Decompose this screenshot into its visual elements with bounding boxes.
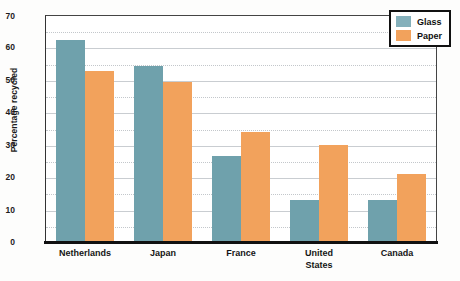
bar-france-paper[interactable]: [241, 132, 270, 242]
y-tick-50: 50: [0, 75, 15, 85]
y-tick-60: 60: [0, 42, 15, 52]
y-tick-10: 10: [0, 205, 15, 215]
bar-group-canada: [358, 16, 436, 242]
bar-united-states-paper[interactable]: [319, 145, 348, 242]
bar-netherlands-glass[interactable]: [56, 40, 85, 242]
bar-canada-glass[interactable]: [368, 200, 397, 242]
bar-japan-glass[interactable]: [134, 66, 163, 242]
bar-france-glass[interactable]: [212, 156, 241, 242]
x-tick-japan: Japan: [124, 248, 202, 260]
x-tick-canada: Canada: [358, 248, 436, 260]
bar-netherlands-paper[interactable]: [85, 71, 114, 242]
bar-canada-paper[interactable]: [397, 174, 426, 242]
legend-item-glass[interactable]: Glass: [396, 16, 442, 27]
bar-chart: Percentage recycled: [0, 0, 460, 281]
y-tick-30: 30: [0, 140, 15, 150]
x-tick-netherlands: Netherlands: [46, 248, 124, 260]
bar-group-netherlands: [46, 16, 124, 242]
legend-label-glass: Glass: [417, 17, 442, 27]
y-tick-70: 70: [0, 11, 15, 21]
paper-swatch-icon: [396, 30, 411, 41]
bar-united-states-glass[interactable]: [290, 200, 319, 242]
x-tick-france: France: [202, 248, 280, 260]
legend: Glass Paper: [389, 10, 451, 47]
bars-container: [46, 16, 436, 242]
x-axis-line: [44, 241, 438, 244]
x-tick-united-states: United States: [280, 248, 358, 271]
bar-group-japan: [124, 16, 202, 242]
y-tick-40: 40: [0, 107, 15, 117]
y-tick-20: 20: [0, 172, 15, 182]
x-tick-united-states-line2: States: [280, 260, 358, 272]
legend-item-paper[interactable]: Paper: [396, 30, 442, 41]
bar-group-france: [202, 16, 280, 242]
bar-japan-paper[interactable]: [163, 82, 192, 242]
x-tick-united-states-line1: United: [280, 248, 358, 260]
legend-label-paper: Paper: [417, 31, 442, 41]
glass-swatch-icon: [396, 16, 411, 27]
bar-group-united-states: [280, 16, 358, 242]
y-tick-0: 0: [0, 237, 15, 247]
